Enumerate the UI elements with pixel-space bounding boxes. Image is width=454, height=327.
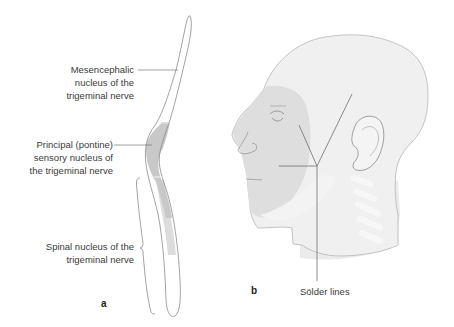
label-line: Mesencephalic [66,63,134,76]
label-line: the trigeminal nerve [30,164,113,177]
label-line: Principal (pontine) [30,138,113,151]
spinal-nucleus-brace [136,178,155,314]
trigeminal-nuclei-column [145,16,191,317]
label-line: nucleus of the [66,76,134,89]
label-line: trigeminal nerve [46,253,134,266]
panel-letter-b: b [251,285,257,296]
label-mesencephalic-nucleus: Mesencephalic nucleus of the trigeminal … [66,63,134,102]
label-line: sensory nucleus of [30,151,113,164]
head-illustration [232,35,428,260]
principal-nucleus-region [146,122,172,218]
label-solder-lines: Sölder lines [300,285,350,298]
label-line: trigeminal nerve [66,89,134,102]
panel-letter-a: a [101,298,107,309]
label-principal-nucleus: Principal (pontine) sensory nucleus of t… [30,138,113,177]
label-spinal-nucleus: Spinal nucleus of the trigeminal nerve [46,240,134,266]
label-line: Spinal nucleus of the [46,240,134,253]
